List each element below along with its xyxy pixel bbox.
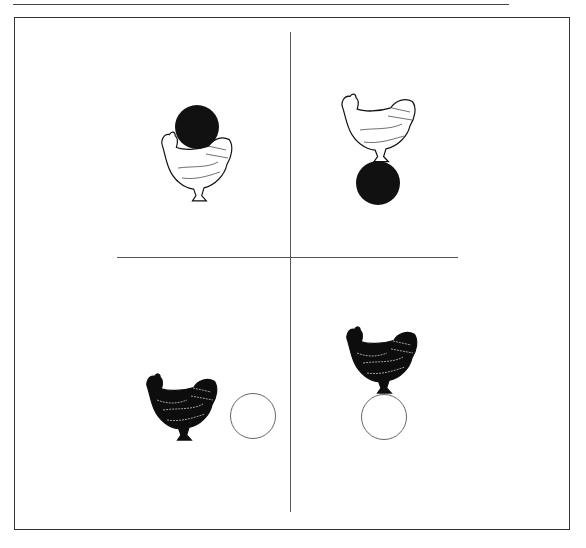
filled-circle-icon (174, 104, 220, 150)
horizontal-divider (117, 257, 458, 258)
figure-frame (14, 17, 570, 530)
black-hen-icon (143, 370, 219, 442)
black-hen-icon (343, 323, 419, 395)
open-circle-icon (360, 393, 408, 441)
top-rule (13, 4, 509, 5)
vertical-divider (290, 32, 291, 512)
filled-circle-icon (355, 160, 401, 206)
open-circle-icon (229, 392, 277, 440)
white-hen-icon (338, 90, 418, 164)
